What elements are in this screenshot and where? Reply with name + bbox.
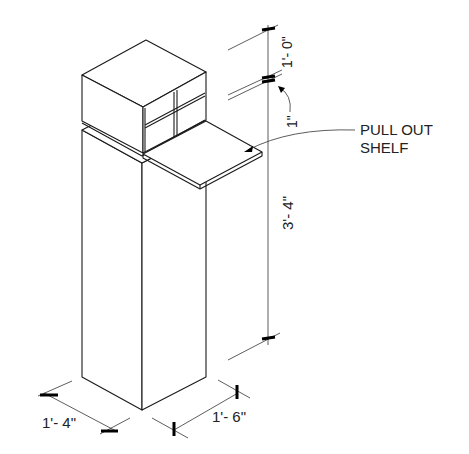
dim-gap: 1" xyxy=(284,115,300,128)
dim-depth: 1'- 4" xyxy=(42,414,76,431)
callout-text-1: PULL OUT xyxy=(360,121,433,138)
dim-width: 1'- 6" xyxy=(212,408,246,425)
callout-leader xyxy=(244,130,355,152)
dim-top-box-height: 1'- 0" xyxy=(279,36,295,68)
height-dimension xyxy=(228,25,290,360)
callout-text-2: SHELF xyxy=(360,139,408,156)
isometric-drawing: PULL OUT SHELF 1'- 0" 1" 3'- 4" 1'- 4" 1… xyxy=(0,0,469,454)
dim-base-height: 3'- 4" xyxy=(279,196,296,230)
